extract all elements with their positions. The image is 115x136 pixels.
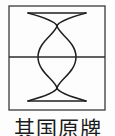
geometric-diagram-svg bbox=[0, 0, 115, 116]
caption: 其国原牌 bbox=[0, 118, 115, 136]
figure-panel bbox=[0, 0, 115, 116]
figure-page: 其国原牌 bbox=[0, 0, 115, 136]
frame-fill bbox=[9, 6, 105, 110]
caption-text: 其国原牌 bbox=[14, 118, 102, 136]
